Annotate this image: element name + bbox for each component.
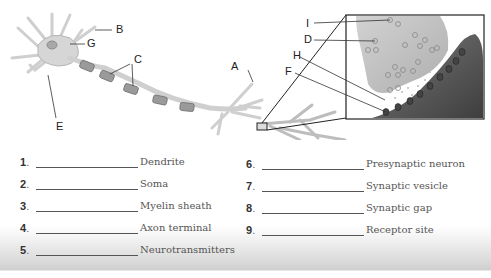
match-item-3: 3. Myelin sheath [20, 196, 212, 212]
label-g: G [87, 38, 96, 49]
term-label: Myelin sheath [140, 200, 212, 212]
term-label: Presynaptic neuron [366, 158, 465, 170]
term-label: Synaptic gap [366, 202, 432, 214]
match-item-9: 9. Receptor site [246, 220, 434, 236]
answer-blank[interactable] [262, 226, 364, 236]
item-number: 5. [20, 244, 34, 256]
label-i: I [306, 18, 309, 29]
answer-blank[interactable] [36, 158, 138, 168]
label-h: H [293, 50, 301, 61]
label-f: F [285, 66, 292, 77]
label-b: B [116, 24, 123, 35]
item-number: 8. [246, 202, 260, 214]
item-number: 3. [20, 200, 34, 212]
term-label: Axon terminal [140, 222, 212, 234]
match-item-4: 4. Axon terminal [20, 218, 212, 234]
answer-blank[interactable] [262, 204, 364, 214]
match-item-7: 7. Synaptic vesicle [246, 176, 448, 192]
item-number: 2. [20, 178, 34, 190]
neuron-diagram: B G C E A I D H F [0, 0, 491, 140]
match-item-5: 5. Neurotransmitters [20, 240, 235, 256]
label-e: E [56, 121, 63, 132]
label-a: A [231, 61, 238, 72]
match-item-1: 1. Dendrite [20, 152, 185, 168]
answer-blank[interactable] [262, 182, 364, 192]
match-item-8: 8. Synaptic gap [246, 198, 432, 214]
worksheet-page: B G C E A I D H F 1. Dendrite 2. Soma 3.… [0, 0, 491, 278]
match-item-6: 6. Presynaptic neuron [246, 154, 465, 170]
term-label: Synaptic vesicle [366, 180, 448, 192]
item-number: 4. [20, 222, 34, 234]
term-label: Receptor site [366, 224, 434, 236]
term-label: Dendrite [140, 156, 185, 168]
term-label: Neurotransmitters [140, 244, 235, 256]
term-label: Soma [140, 178, 168, 190]
item-number: 1. [20, 156, 34, 168]
answer-blank[interactable] [36, 202, 138, 212]
answer-blank[interactable] [36, 246, 138, 256]
neuron-illustration [0, 0, 491, 140]
answer-blank[interactable] [36, 180, 138, 190]
match-item-2: 2. Soma [20, 174, 168, 190]
label-d: D [304, 34, 312, 45]
answer-blank[interactable] [262, 160, 364, 170]
item-number: 7. [246, 180, 260, 192]
label-c: C [134, 54, 142, 65]
answer-blank[interactable] [36, 224, 138, 234]
item-number: 9. [246, 224, 260, 236]
matching-list: 1. Dendrite 2. Soma 3. Myelin sheath 4. … [0, 150, 491, 270]
item-number: 6. [246, 158, 260, 170]
